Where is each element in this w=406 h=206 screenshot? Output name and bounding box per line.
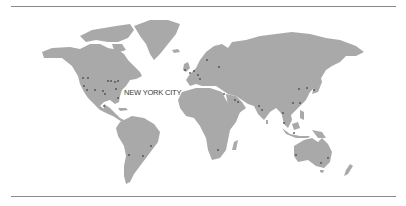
iceland	[172, 49, 180, 53]
city-marker-dot	[199, 78, 201, 80]
philippines	[300, 110, 304, 120]
city-marker-dot	[217, 149, 219, 151]
city-marker-dot	[107, 80, 109, 82]
city-marker-dot	[327, 157, 329, 159]
city-marker-dot	[295, 154, 297, 156]
city-marker-dot	[189, 72, 191, 74]
arctic-archipelago	[80, 24, 134, 42]
city-marker-dot	[223, 93, 225, 95]
city-marker-dot	[258, 105, 260, 107]
city-marker-dot	[298, 88, 300, 90]
bottom-divider	[11, 196, 396, 197]
sri-lanka	[266, 120, 268, 124]
city-marker-dot	[320, 162, 322, 164]
borneo	[292, 122, 300, 130]
australia	[294, 138, 332, 168]
city-marker-dot	[197, 74, 199, 76]
city-marker-dot	[184, 69, 186, 71]
city-marker-dot	[115, 88, 117, 90]
new-zealand	[344, 164, 353, 176]
city-marker-dot	[150, 145, 152, 147]
city-marker-dot	[86, 89, 88, 91]
greenland	[134, 20, 180, 60]
city-marker-dot	[306, 87, 308, 89]
city-marker-dot	[193, 70, 195, 72]
world-map	[0, 0, 406, 206]
city-marker-dot	[87, 77, 89, 79]
city-marker-dot	[83, 85, 85, 87]
city-marker-dot	[261, 109, 263, 111]
caribbean	[118, 108, 128, 111]
city-marker-dot	[103, 105, 105, 107]
new-york-city-label: NEW YORK CITY	[124, 88, 181, 97]
city-marker-dot	[110, 80, 112, 82]
city-marker-dot	[313, 89, 315, 91]
city-marker-dot	[293, 132, 295, 134]
continents	[42, 20, 364, 184]
madagascar	[232, 140, 238, 150]
city-marker-dot	[299, 102, 301, 104]
new-guinea	[312, 130, 326, 138]
city-marker-dot	[102, 90, 104, 92]
british-isles	[183, 62, 190, 72]
city-marker-dot	[234, 99, 236, 101]
city-marker-dot	[117, 80, 119, 82]
city-marker-dot	[282, 112, 284, 114]
city-marker-dot	[94, 89, 96, 91]
city-marker-dot	[104, 93, 106, 95]
city-marker-dot	[218, 66, 220, 68]
north-america	[42, 44, 142, 116]
city-marker-dot	[283, 122, 285, 124]
tasmania	[320, 170, 324, 173]
city-marker-dot	[82, 77, 84, 79]
city-marker-dot	[292, 102, 294, 104]
city-marker-dot	[114, 81, 116, 83]
sumatra-java	[282, 128, 310, 138]
city-marker-dot	[142, 155, 144, 157]
city-marker-dot	[237, 101, 239, 103]
city-marker-dot	[206, 59, 208, 61]
city-marker-dot	[117, 97, 119, 99]
city-marker-dot	[128, 154, 130, 156]
south-america	[116, 116, 160, 184]
